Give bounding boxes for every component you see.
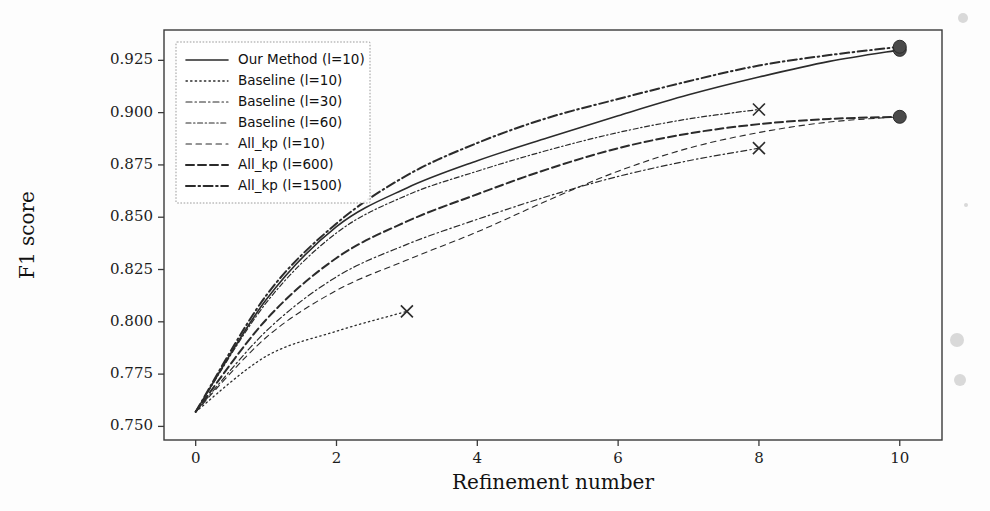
x-tick-label: 0	[191, 449, 201, 467]
x-tick-label: 8	[754, 449, 764, 467]
y-tick-label: 0.825	[110, 260, 153, 278]
y-axis-title: F1 score	[15, 191, 39, 279]
y-tick-label: 0.850	[110, 207, 153, 225]
legend-label-6: All_kp (l=1500)	[238, 177, 342, 193]
legend-label-2: Baseline (l=30)	[238, 93, 342, 109]
series-line-1	[196, 311, 407, 411]
x-axis-ticks: 0246810	[191, 440, 909, 467]
x-tick-label: 4	[473, 449, 483, 467]
y-tick-label: 0.800	[110, 312, 153, 330]
marker-layer	[401, 40, 906, 317]
endpoint-marker-circle	[893, 40, 906, 53]
legend-label-4: All_kp (l=10)	[238, 135, 325, 151]
paper-specks	[950, 13, 968, 386]
legend-label-5: All_kp (l=600)	[238, 156, 334, 172]
y-tick-label: 0.925	[110, 50, 153, 68]
x-tick-label: 6	[613, 449, 623, 467]
x-tick-label: 10	[890, 449, 909, 467]
endpoint-marker-x	[401, 305, 413, 317]
x-tick-label: 2	[332, 449, 342, 467]
legend-label-1: Baseline (l=10)	[238, 72, 342, 88]
endpoint-marker-x	[753, 142, 765, 154]
chart-legend[interactable]: Our Method (l=10)Baseline (l=10)Baseline…	[176, 42, 370, 203]
x-axis-title: Refinement number	[452, 470, 654, 494]
y-tick-label: 0.750	[110, 416, 153, 434]
legend-label-3: Baseline (l=60)	[238, 114, 342, 130]
endpoint-marker-circle	[893, 110, 906, 123]
f1-score-line-chart: 0.7500.7750.8000.8250.8500.8750.9000.925…	[0, 0, 990, 511]
y-tick-label: 0.775	[110, 364, 153, 382]
legend-label-0: Our Method (l=10)	[238, 51, 365, 67]
y-axis-ticks: 0.7500.7750.8000.8250.8500.8750.9000.925	[110, 50, 164, 434]
endpoint-marker-x	[753, 103, 765, 115]
y-tick-label: 0.875	[110, 155, 153, 173]
y-tick-label: 0.900	[110, 103, 153, 121]
figure-canvas: 0.7500.7750.8000.8250.8500.8750.9000.925…	[0, 0, 990, 511]
